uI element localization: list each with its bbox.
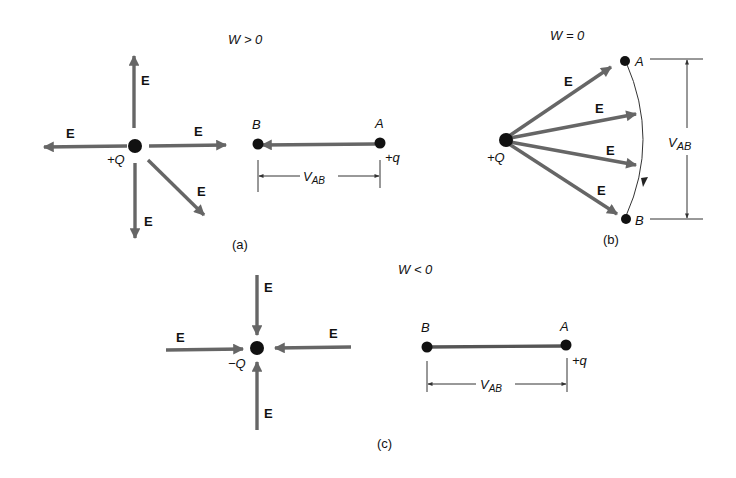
arc-arrowhead bbox=[641, 177, 648, 187]
field-arrow-left-in bbox=[275, 347, 351, 348]
condition-label-b: W = 0 bbox=[550, 28, 585, 43]
field-label-3: E bbox=[606, 143, 615, 158]
point-a-dot bbox=[375, 138, 386, 149]
field-arrow-2 bbox=[510, 114, 636, 138]
field-label-right: E bbox=[194, 124, 203, 139]
field-label-2: E bbox=[595, 101, 604, 116]
field-label-right: E bbox=[329, 326, 338, 341]
field-label-left: E bbox=[176, 330, 185, 345]
point-a-dot bbox=[561, 340, 572, 351]
field-label-bottom: E bbox=[264, 406, 273, 421]
field-arrow-diagonal bbox=[148, 160, 204, 215]
caption-b: (b) bbox=[603, 232, 619, 247]
electric-field-work-diagram: W > 0 +Q E E E E E B A +q VAB bbox=[0, 0, 736, 478]
panel-b: W = 0 +Q E E E E A B VAB (b) bbox=[487, 28, 703, 247]
point-b-dot bbox=[422, 342, 433, 353]
field-arrow-right-in bbox=[166, 349, 243, 350]
charge-dot bbox=[250, 341, 264, 355]
point-b-dot bbox=[621, 214, 631, 224]
field-label-down: E bbox=[144, 214, 153, 229]
field-label-diagonal: E bbox=[197, 184, 206, 199]
caption-a: (a) bbox=[232, 237, 248, 252]
point-a-dot bbox=[620, 56, 630, 66]
point-a-label: A bbox=[634, 54, 644, 69]
point-b-label: B bbox=[635, 213, 644, 228]
field-label-4: E bbox=[597, 183, 606, 198]
charge-dot bbox=[128, 139, 142, 153]
test-charge-label: +q bbox=[385, 150, 401, 165]
positive-charge-field-a: +Q E E E E E bbox=[44, 56, 226, 238]
panel-a: W > 0 +Q E E E E E B A +q VAB bbox=[44, 32, 401, 252]
point-a-label: A bbox=[559, 319, 569, 334]
charge-label: +Q bbox=[487, 150, 505, 165]
field-arrow-right bbox=[149, 145, 226, 146]
field-arrow-3 bbox=[510, 142, 636, 165]
condition-label-c: W < 0 bbox=[398, 262, 433, 277]
charge-dot bbox=[499, 133, 513, 147]
panel-c: W < 0 −Q E E E E B A +q VAB (c) bbox=[166, 262, 588, 451]
field-arrow-left bbox=[44, 146, 127, 147]
voltage-label: VAB bbox=[668, 135, 691, 152]
path-line bbox=[427, 346, 566, 347]
point-a-label: A bbox=[374, 116, 384, 131]
path-arrow-a-to-b bbox=[262, 144, 375, 145]
equipotential-arc bbox=[626, 62, 643, 216]
charge-label: −Q bbox=[228, 356, 246, 371]
field-label-up: E bbox=[141, 73, 150, 88]
field-label-left: E bbox=[66, 126, 75, 141]
voltage-label: VAB bbox=[303, 169, 325, 186]
charge-label: +Q bbox=[107, 152, 125, 167]
test-charge-path-a: B A +q VAB bbox=[252, 116, 401, 192]
test-charge-label: +q bbox=[572, 353, 588, 368]
field-label-top: E bbox=[264, 280, 273, 295]
point-b-label: B bbox=[421, 320, 430, 335]
point-b-dot bbox=[253, 139, 264, 150]
field-arrow-4 bbox=[509, 144, 617, 214]
condition-label-a: W > 0 bbox=[228, 32, 263, 47]
caption-c: (c) bbox=[377, 436, 392, 451]
field-label-1: E bbox=[564, 74, 573, 89]
point-b-label: B bbox=[252, 117, 261, 132]
voltage-label: VAB bbox=[480, 377, 502, 394]
